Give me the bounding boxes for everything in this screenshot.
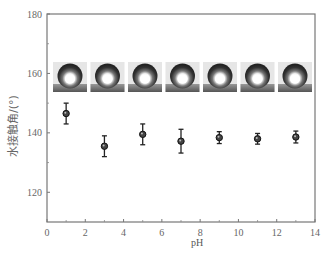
x-tick-label: 14 [310,227,320,238]
data-point-highlight [294,135,296,137]
data-point-highlight [256,137,258,139]
data-point [293,134,299,140]
x-axis-label: pH [191,237,203,248]
data-point-highlight [179,139,181,141]
data-point-highlight [141,133,143,135]
x-tick-label: 2 [83,227,88,238]
data-point-highlight [217,136,219,138]
droplet-image [166,62,200,92]
droplet-image [128,62,162,92]
y-tick-label: 160 [27,68,42,79]
contact-angle-chart: 02468101214120140160180pH [0,0,331,262]
droplet-image [91,62,125,92]
x-tick-label: 6 [159,227,164,238]
x-tick-label: 0 [45,227,50,238]
y-tick-label: 120 [27,187,42,198]
droplet-image [278,62,312,92]
data-point [101,143,107,149]
y-tick-label: 140 [27,127,42,138]
x-tick-label: 10 [233,227,243,238]
droplet-image [53,62,87,92]
data-point [140,131,146,137]
y-axis-label: 水接触角/(°) [4,86,20,166]
data-point-highlight [64,112,66,114]
droplet-image [241,62,275,92]
droplet-image [203,62,237,92]
data-point [178,138,184,144]
plot-frame [47,14,315,222]
data-point-highlight [103,144,105,146]
y-tick-label: 180 [27,9,42,20]
data-point [216,134,222,140]
data-point [254,136,260,142]
data-point [63,110,69,116]
x-tick-label: 4 [121,227,126,238]
x-tick-label: 12 [272,227,282,238]
